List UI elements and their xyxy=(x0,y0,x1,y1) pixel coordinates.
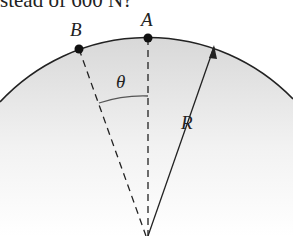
label-theta: θ xyxy=(116,71,125,93)
point-a-dot xyxy=(144,34,153,43)
label-r: R xyxy=(181,112,193,134)
point-b-dot xyxy=(75,45,84,54)
label-a: A xyxy=(141,9,153,31)
label-b: B xyxy=(70,19,82,41)
shaded-region xyxy=(0,38,293,236)
curved-surface-diagram xyxy=(0,0,293,236)
